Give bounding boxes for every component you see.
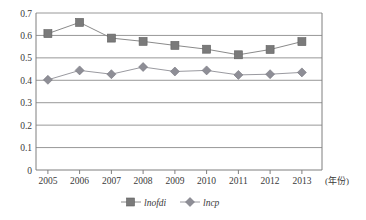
x-tick-labels: 2005 2006 2007 2008 2009 2010 2011 2012 … <box>38 176 311 186</box>
legend-label-lncp: lncp <box>203 198 220 208</box>
line-chart: 0.7 0.6 0.5 0.4 0.3 0.2 0.1 0 2005 2006 … <box>0 0 366 220</box>
data-point-marker <box>203 45 211 53</box>
x-tick-label-2005: 2005 <box>38 176 57 186</box>
legend-label-lnofdi: lnofdi <box>144 198 167 208</box>
data-point-marker <box>266 46 274 54</box>
data-point-marker <box>107 34 115 42</box>
chart-figure: 0.7 0.6 0.5 0.4 0.3 0.2 0.1 0 2005 2006 … <box>0 0 366 220</box>
data-point-marker <box>171 41 179 49</box>
y-tick-label: 0.1 <box>20 143 32 153</box>
x-tick-label-2006: 2006 <box>70 176 89 186</box>
legend-item-lncp[interactable]: lncp <box>180 198 220 208</box>
chart-legend: lnofdi lncp <box>121 198 220 208</box>
y-tick-label: 0.7 <box>20 9 32 19</box>
y-tick-label: 0.3 <box>20 98 32 108</box>
x-tick-label-2013: 2013 <box>292 176 311 186</box>
data-point-marker <box>234 51 242 59</box>
x-tick-label-2010: 2010 <box>197 176 216 186</box>
data-point-marker <box>139 37 147 45</box>
legend-diamond-marker-icon <box>186 198 195 207</box>
y-tick-label: 0.4 <box>20 76 32 86</box>
x-tick-label-2007: 2007 <box>102 176 121 186</box>
legend-item-lnofdi[interactable]: lnofdi <box>121 198 167 208</box>
x-tick-label-2011: 2011 <box>229 176 248 186</box>
x-tick-label-2008: 2008 <box>134 176 153 186</box>
x-tick-marks <box>48 170 302 174</box>
data-point-marker <box>298 38 306 46</box>
plot-background <box>36 13 322 170</box>
x-axis-label: (年份) <box>325 175 349 186</box>
legend-square-marker-icon <box>127 198 135 206</box>
y-tick-label: 0.2 <box>20 121 32 131</box>
y-tick-labels: 0.7 0.6 0.5 0.4 0.3 0.2 0.1 0 <box>20 9 32 176</box>
y-tick-label: 0.5 <box>20 53 32 63</box>
data-point-marker <box>76 18 84 26</box>
y-tick-label: 0 <box>27 166 32 176</box>
x-tick-label-2009: 2009 <box>165 176 184 186</box>
x-tick-label-2012: 2012 <box>261 176 280 186</box>
data-point-marker <box>44 30 52 38</box>
y-tick-label: 0.6 <box>20 31 32 41</box>
